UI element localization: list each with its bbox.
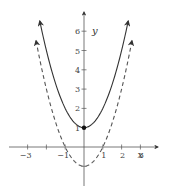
y-tick-label: 5 [75, 47, 80, 56]
y-tick-label: 1 [75, 124, 80, 133]
x-tick-label: 1 [101, 151, 106, 160]
y-axis-label: y [91, 25, 98, 36]
x-tick-label: −3 [20, 151, 32, 160]
y-tick-label: 6 [75, 27, 80, 36]
x-axis-label: x [137, 149, 143, 160]
vertex-point [82, 126, 86, 130]
y-tick-label: 4 [75, 66, 80, 75]
y-tick-label: 2 [75, 104, 80, 113]
x-tick-label: −1 [57, 151, 69, 160]
x-tick-label: 2 [120, 151, 125, 160]
chart: −3−1123123456yx [0, 0, 182, 194]
y-tick-label: 3 [75, 85, 80, 94]
tick-labels: −3−1123123456yx [20, 25, 144, 160]
